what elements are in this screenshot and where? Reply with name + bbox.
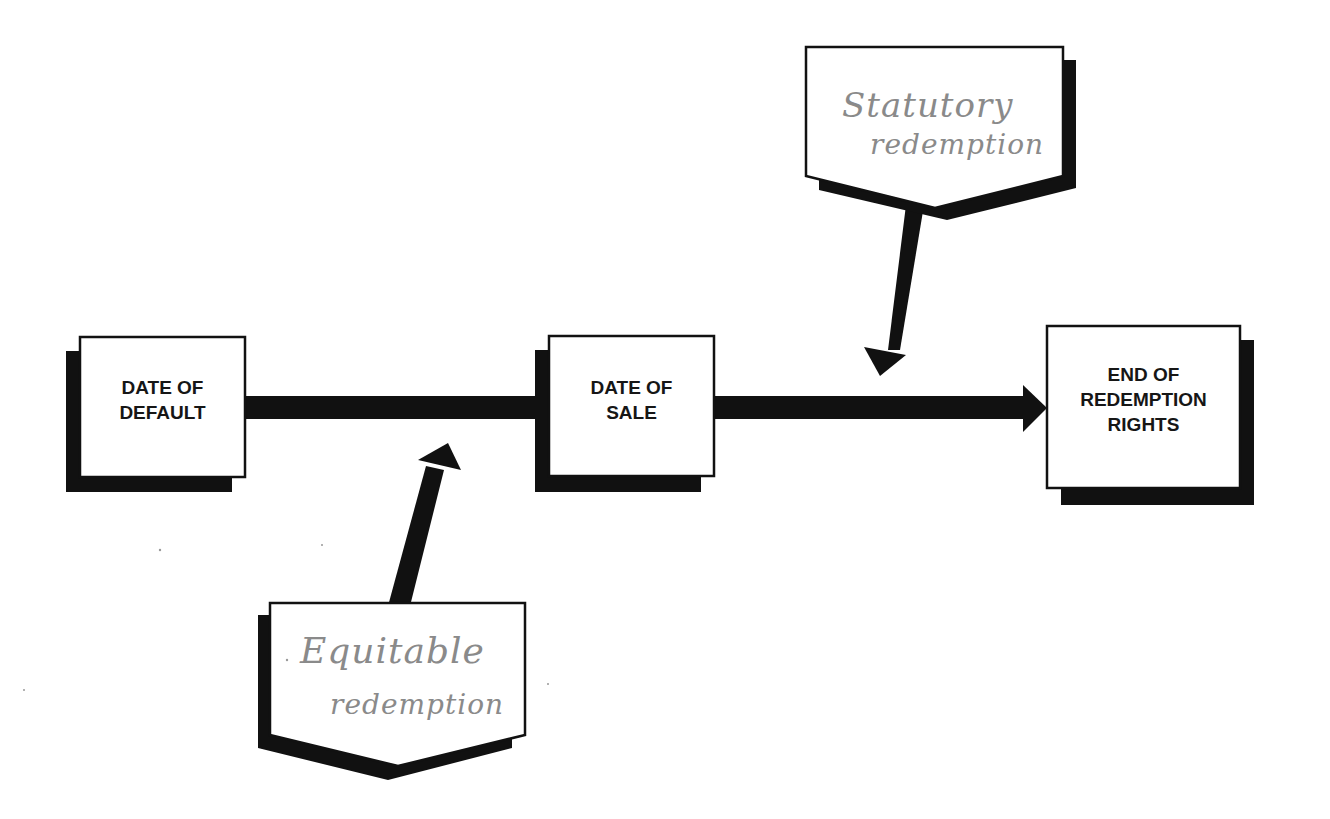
node-label-line: END OF (1108, 362, 1180, 387)
node-label-end-of-redemption-rights: END OF REDEMPTION RIGHTS (1047, 340, 1240, 458)
callout-box (270, 603, 525, 766)
node-label-line: SALE (606, 400, 657, 425)
node-label-line: DATE OF (591, 375, 673, 400)
node-label-line: DEFAULT (119, 400, 205, 425)
node-label-date-of-default: DATE OF DEFAULT (80, 350, 249, 450)
arrow-equitable-pointer (388, 443, 461, 606)
callout-label-statutory-line2: redemption (870, 128, 1044, 161)
arrow-statutory-pointer (864, 205, 924, 376)
node-label-date-of-sale: DATE OF SALE (549, 352, 714, 448)
arrow-sale-to-end (712, 385, 1047, 432)
node-label-line: DATE OF (122, 375, 204, 400)
connector-default-to-sale (243, 396, 551, 419)
callout-label-statutory-line1: Statutory (842, 85, 1013, 125)
node-label-line: RIGHTS (1108, 412, 1180, 437)
callout-label-equitable-line2: redemption (330, 688, 504, 721)
node-label-line: REDEMPTION (1080, 387, 1207, 412)
callout-label-equitable-line1: Equitable (300, 630, 485, 671)
